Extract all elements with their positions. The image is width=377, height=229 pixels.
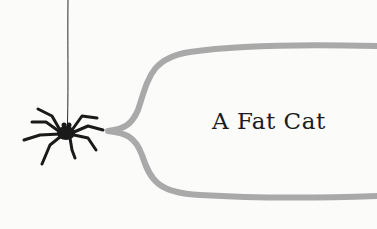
spider-body — [57, 126, 75, 140]
spider-eye — [62, 123, 67, 128]
spider-eye — [67, 123, 72, 128]
page-title: A Fat Cat — [212, 108, 326, 134]
page: A Fat Cat — [0, 0, 377, 229]
spider-thread — [68, 0, 69, 124]
